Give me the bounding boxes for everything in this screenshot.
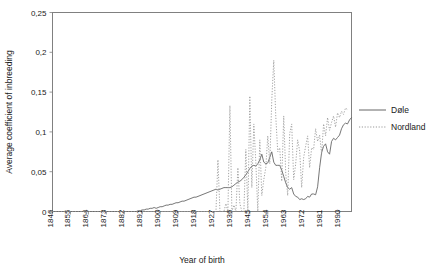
y-axis-tick-label: 0,2 [35,48,47,57]
x-axis-tick-label: 1954 [261,209,270,227]
x-axis-title: Year of birth [179,255,225,265]
legend-label-dole: Døle [391,105,409,115]
y-axis-tick-label: 0,25 [31,9,47,18]
x-axis-tick-label: 1963 [279,209,288,227]
y-axis-tick-label: 0,05 [31,168,47,177]
chart-canvas: 00,050,10,150,20,25 18461855186418731882… [0,0,441,269]
x-axis-tick-label: 1972 [297,209,306,227]
inbreeding-line-chart: 00,050,10,150,20,25 18461855186418731882… [0,0,441,269]
y-axis-title: Average coefficient of inbreeding [4,50,14,174]
x-axis-tick-label: 1927 [207,209,216,227]
x-axis-tick-label: 1990 [333,209,342,227]
y-axis-tick-label: 0,15 [31,88,47,97]
legend-label-nordland: Nordland [391,122,426,132]
y-axis-tick-label: 0,1 [35,128,47,137]
x-axis-tick-label: 1936 [225,209,234,227]
x-axis-tick-label: 1981 [315,209,324,227]
chart-background [0,0,441,269]
